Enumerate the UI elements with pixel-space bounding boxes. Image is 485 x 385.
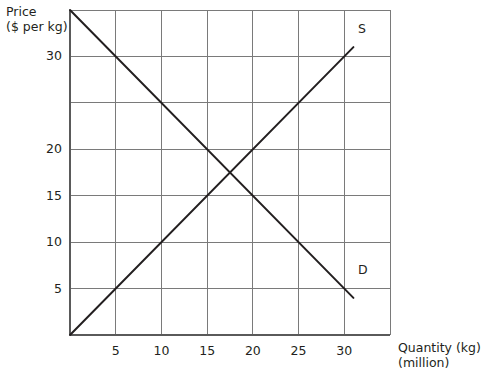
x-axis-title-line1: Quantity (kg) (398, 340, 481, 355)
y-tick-label: 15 (32, 188, 62, 203)
chart-plot-area (0, 0, 485, 385)
x-tick-label: 10 (149, 343, 173, 358)
supply-demand-chart: Price ($ per kg) Quantity (kg) (million)… (0, 0, 485, 385)
curve-label-d: D (358, 262, 368, 277)
x-axis-title-line2: (million) (398, 355, 481, 370)
y-axis-title-line1: Price (6, 4, 68, 19)
x-axis-title: Quantity (kg) (million) (398, 340, 481, 370)
y-axis-title: Price ($ per kg) (6, 4, 68, 34)
y-tick-label: 30 (32, 48, 62, 63)
y-tick-label: 20 (32, 141, 62, 156)
curves-group (70, 10, 353, 335)
x-tick-label: 25 (287, 343, 311, 358)
y-axis-title-line2: ($ per kg) (6, 19, 68, 34)
x-tick-label: 20 (241, 343, 265, 358)
x-tick-label: 15 (195, 343, 219, 358)
curve-s (70, 47, 353, 335)
curve-d (70, 10, 353, 298)
y-tick-label: 10 (32, 234, 62, 249)
x-tick-label: 5 (104, 343, 128, 358)
curve-label-s: S (358, 21, 366, 36)
x-tick-label: 30 (332, 343, 356, 358)
y-tick-label: 5 (32, 281, 62, 296)
